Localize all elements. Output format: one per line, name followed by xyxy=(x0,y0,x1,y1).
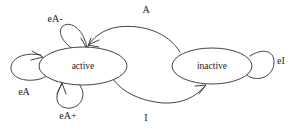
self-loop-ei-label: eI xyxy=(277,55,285,66)
self-loop-ea-plus: eA+ xyxy=(57,83,83,121)
transition-a-path xyxy=(89,26,180,52)
self-loop-ea-plus-path xyxy=(57,84,83,108)
state-diagram-canvas: A I eA- eA eA+ eI xyxy=(0,0,295,129)
self-loop-ea-plus-arrowhead xyxy=(57,83,66,94)
transition-i-path xyxy=(113,79,205,103)
transition-i: I xyxy=(113,79,206,123)
self-loop-ea-arrowhead xyxy=(31,51,43,60)
transition-i-label: I xyxy=(144,112,147,123)
self-loop-ea-minus-label: eA- xyxy=(48,13,63,24)
state-node-active[interactable]: active xyxy=(39,47,127,85)
self-loop-ea: eA xyxy=(11,51,46,97)
state-node-inactive-label: inactive xyxy=(197,61,227,71)
state-diagram: A I eA- eA eA+ eI xyxy=(0,0,295,129)
self-loop-ea-label: eA xyxy=(18,86,30,97)
transition-a: A xyxy=(88,4,180,52)
state-node-active-label: active xyxy=(72,61,95,71)
self-loop-ea-minus: eA- xyxy=(48,13,92,49)
self-loop-ea-minus-path xyxy=(60,24,87,49)
self-loop-ea-plus-label: eA+ xyxy=(59,110,77,121)
state-node-inactive[interactable]: inactive xyxy=(172,48,252,84)
transition-a-label: A xyxy=(142,4,150,15)
